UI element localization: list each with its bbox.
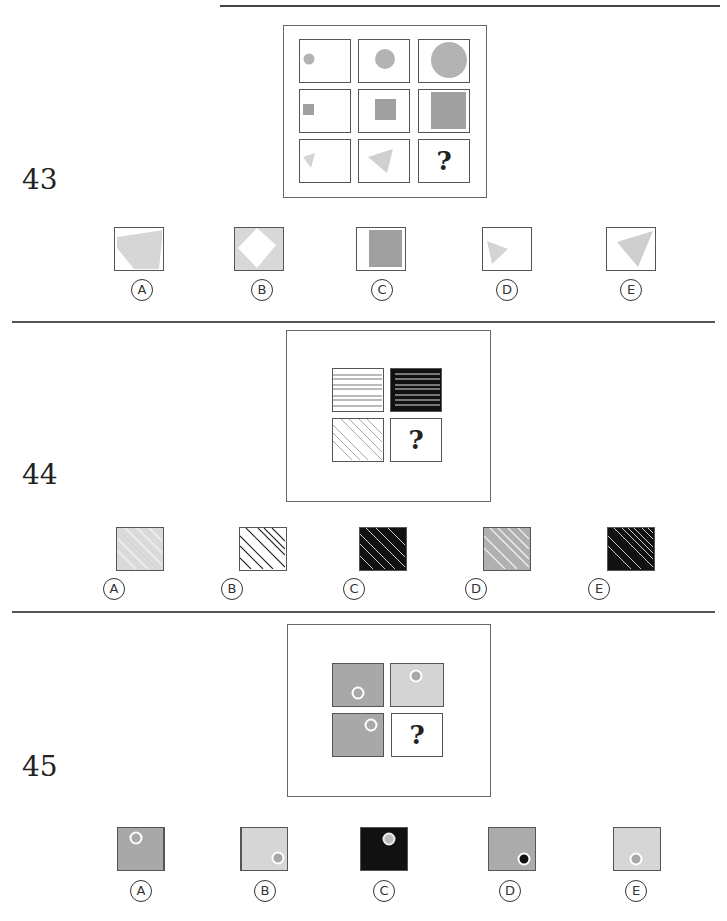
triangle-shape-icon [300,140,349,181]
diagonal-lines-pattern-icon [360,528,405,569]
q44-option-b-label[interactable]: B [221,578,243,600]
circle-shape-icon [419,40,468,81]
q44-option-a-label[interactable]: A [103,578,125,600]
q44-cell-white-diagonal-lines [332,418,384,462]
q44-option-c[interactable] [359,527,407,571]
q43-cell-small-square [299,89,351,133]
q43-option-a[interactable] [114,227,164,271]
circle-shape-icon [300,40,349,81]
q45-option-d-label[interactable]: D [499,880,521,902]
q44-option-c-label[interactable]: C [343,578,365,600]
ring-icon [118,828,162,869]
q43-option-b[interactable] [234,227,284,271]
diagonal-lines-pattern-icon [240,528,285,569]
q43-option-e[interactable] [606,227,656,271]
q45-option-a-label[interactable]: A [130,880,152,902]
question-number-43: 43 [22,163,58,196]
question-number-45: 45 [22,750,58,783]
square-shape-icon [300,90,349,131]
question-number-44: 44 [22,458,58,491]
q45-option-e[interactable] [613,827,661,871]
diagonal-lines-pattern-icon [333,419,382,460]
triangle-shape-icon [483,228,530,269]
q44-option-b[interactable] [239,527,287,571]
q45-cell-light-circle-top [390,663,444,707]
q43-cell-medium-triangle [358,139,410,183]
ring-icon [614,828,659,869]
q43-cell-medium-circle [358,39,410,83]
q43-option-d-label[interactable]: D [496,279,518,301]
q44-option-e[interactable] [607,527,655,571]
square-shape-icon [419,90,468,131]
diagonal-lines-pattern-icon [484,528,529,569]
square-shape-icon [359,90,408,131]
q43-puzzle-frame: ? [283,25,487,198]
q45-option-c[interactable] [360,827,408,871]
ring-icon [333,714,382,755]
horizontal-lines-pattern-icon [333,369,382,410]
q43-cell-medium-square [358,89,410,133]
header-rule [220,5,720,7]
ring-icon [242,828,286,869]
q43-option-a-label[interactable]: A [131,279,153,301]
q45-puzzle-frame: ? [287,624,491,797]
q43-cell-small-triangle [299,139,351,183]
q45-option-a[interactable] [117,827,165,871]
section-divider [12,321,715,323]
quadrilateral-shape-icon [115,228,162,269]
q44-option-e-label[interactable]: E [588,578,610,600]
ring-icon [333,664,382,705]
q44-cell-white-horizontal-lines [332,368,384,412]
q43-option-e-label[interactable]: E [620,279,642,301]
question-mark: ? [419,146,469,176]
q45-option-d[interactable] [488,827,536,871]
triangle-shape-icon [607,228,654,269]
q43-option-b-label[interactable]: B [251,279,273,301]
ring-icon [489,828,534,869]
q43-cell-large-square [418,89,470,133]
diamond-shape-icon [235,228,282,269]
question-mark: ? [392,720,442,750]
q45-cell-question: ? [391,713,443,757]
q44-option-d-label[interactable]: D [465,578,487,600]
q43-option-d[interactable] [482,227,532,271]
q45-option-c-label[interactable]: C [373,880,395,902]
q43-cell-small-circle [299,39,351,83]
diagonal-lines-pattern-icon [608,528,653,569]
q45-cell-gray-circle-bottom-left [332,663,384,707]
q45-cell-gray-circle-top-right [332,713,384,757]
q45-option-e-label[interactable]: E [625,880,647,902]
square-shape-icon [357,228,404,269]
q43-cell-large-circle [418,39,470,83]
q43-option-c[interactable] [356,227,406,271]
q45-option-b[interactable] [240,827,288,871]
q44-puzzle-frame: ? [286,330,491,502]
q43-cell-question: ? [418,139,470,183]
ring-icon [361,828,406,869]
q43-option-c-label[interactable]: C [371,279,393,301]
q44-cell-question: ? [390,418,442,462]
circle-shape-icon [359,40,408,81]
q44-option-d[interactable] [483,527,531,571]
section-divider [12,611,715,613]
horizontal-lines-pattern-icon [391,369,440,410]
diagonal-lines-pattern-icon [117,528,162,569]
q44-option-a[interactable] [116,527,164,571]
question-mark: ? [391,425,441,455]
ring-icon [391,664,442,705]
triangle-shape-icon [359,140,408,181]
q44-cell-black-horizontal-lines [390,368,442,412]
q45-option-b-label[interactable]: B [254,880,276,902]
